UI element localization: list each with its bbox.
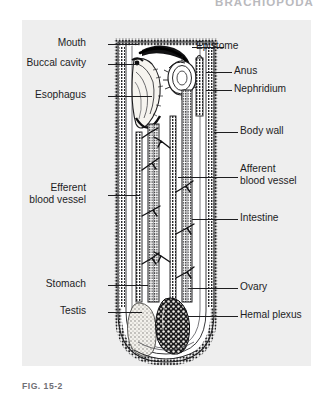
label-efferent-line1: Efferent (14, 182, 86, 194)
label-afferent-line1: Afferent (240, 163, 297, 175)
label-esophagus: Esophagus (20, 89, 86, 101)
label-afferent-blood-vessel: Afferent blood vessel (240, 163, 297, 188)
figure-caption: FIG. 15-2 (22, 381, 63, 391)
label-intestine: Intestine (240, 212, 279, 224)
label-ovary: Ovary (240, 281, 267, 293)
leader-body-wall (214, 132, 238, 133)
label-hemal-plexus: Hemal plexus (240, 309, 302, 321)
leader-ovary (188, 288, 238, 289)
leader-buccal-cavity (108, 64, 138, 65)
label-body-wall: Body wall (240, 125, 284, 137)
label-efferent-line2: blood vessel (14, 194, 86, 206)
label-anus: Anus (234, 65, 257, 77)
leader-esophagus (108, 96, 152, 97)
leader-anus (206, 72, 232, 73)
leader-afferent (178, 177, 238, 178)
label-nephridium: Nephridium (234, 83, 286, 95)
label-efferent-blood-vessel: Efferent blood vessel (14, 182, 86, 207)
running-head: BRACHIOPODA (215, 0, 314, 8)
leader-stomach (108, 285, 148, 286)
label-buccal-cavity: Buccal cavity (14, 57, 86, 69)
label-epistome: Epistome (196, 40, 238, 52)
leader-nephridium (206, 90, 232, 91)
leader-intestine (192, 219, 238, 220)
label-afferent-line2: blood vessel (240, 175, 297, 187)
label-mouth: Mouth (24, 37, 86, 49)
label-stomach: Stomach (22, 278, 86, 290)
label-testis: Testis (30, 305, 86, 317)
leader-testis (108, 312, 142, 313)
leader-hemal-plexus (188, 316, 238, 317)
leader-mouth (108, 44, 138, 45)
leader-efferent (108, 195, 140, 196)
